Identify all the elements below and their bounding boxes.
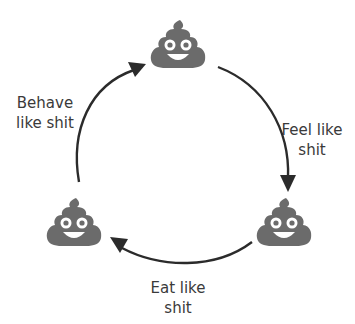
label-line: shit (272, 140, 352, 160)
poop-emoji-icon (46, 196, 102, 248)
arrowhead-top-to-right (280, 175, 296, 192)
arrow-left-to-top (77, 70, 134, 182)
label-line: Behave (6, 93, 84, 113)
label-feel-like-shit: Feel like shit (272, 120, 352, 160)
node-left (46, 196, 102, 248)
node-right (256, 196, 312, 248)
node-top (150, 18, 206, 70)
cycle-diagram: Behave like shit Feel like shit Eat like… (0, 0, 355, 324)
label-line: like shit (6, 113, 84, 133)
arrow-right-to-left (122, 242, 252, 263)
label-line: shit (138, 298, 218, 318)
poop-emoji-icon (150, 18, 206, 70)
label-behave-like-shit: Behave like shit (6, 93, 84, 133)
label-eat-like-shit: Eat like shit (138, 278, 218, 318)
label-line: Feel like (272, 120, 352, 140)
label-line: Eat like (138, 278, 218, 298)
arrowhead-left-to-top (128, 62, 146, 77)
poop-emoji-icon (256, 196, 312, 248)
